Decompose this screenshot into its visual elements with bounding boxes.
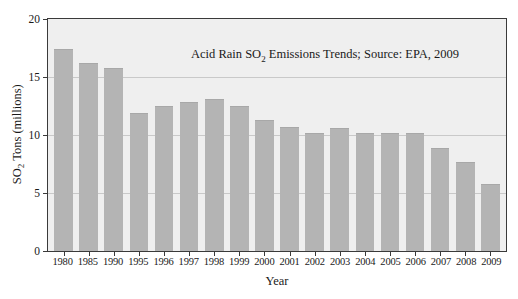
x-axis-tick-label-2002: 2002 <box>302 256 327 272</box>
x-axis-tick-labels: 1980198519901995199619971998199920002001… <box>47 256 507 272</box>
x-axis-tick-label-1985: 1985 <box>75 256 100 272</box>
bar-2009[interactable] <box>481 184 500 251</box>
x-axis-tick-label-2007: 2007 <box>428 256 453 272</box>
bar-2002[interactable] <box>305 133 324 251</box>
y-axis-tick <box>43 251 48 252</box>
bar-2004[interactable] <box>356 133 375 251</box>
x-axis-tick-label-2006: 2006 <box>403 256 428 272</box>
bar-1995[interactable] <box>130 113 149 251</box>
y-axis-title: SO2 Tons (millions) <box>10 34 27 234</box>
bar-2000[interactable] <box>255 120 274 251</box>
x-axis-tick-label-2003: 2003 <box>327 256 352 272</box>
y-axis-tick-label: 0 <box>34 245 40 257</box>
x-axis-tick-label-1995: 1995 <box>126 256 151 272</box>
x-axis-tick-label-2009: 2009 <box>479 256 504 272</box>
x-axis-tick-label-1998: 1998 <box>201 256 226 272</box>
bar-2007[interactable] <box>431 148 450 251</box>
bar-2006[interactable] <box>406 133 425 251</box>
plot-area: 05101520 Acid Rain SO2 Emissions Trends;… <box>47 18 507 252</box>
bar-2005[interactable] <box>381 133 400 251</box>
y-axis-tick-label: 10 <box>29 129 41 141</box>
y-axis-title-subscript: 2 <box>16 164 26 169</box>
x-axis-tick-label-1996: 1996 <box>151 256 176 272</box>
y-axis-title-before: SO <box>10 168 24 184</box>
chart-title-before: Acid Rain SO <box>191 47 261 61</box>
bar-1996[interactable] <box>155 106 174 251</box>
x-axis-tick-label-1999: 1999 <box>227 256 252 272</box>
x-axis-title: Year <box>47 274 507 289</box>
bar-2003[interactable] <box>330 128 349 251</box>
bar-1980[interactable] <box>54 49 73 251</box>
x-axis-tick-label-1980: 1980 <box>50 256 75 272</box>
x-axis-tick-label-1997: 1997 <box>176 256 201 272</box>
x-axis-tick-label-2005: 2005 <box>378 256 403 272</box>
y-axis-tick-label: 5 <box>34 187 40 199</box>
x-axis-tick-label-2008: 2008 <box>454 256 479 272</box>
x-axis-tick-label-1990: 1990 <box>100 256 125 272</box>
bar-1990[interactable] <box>104 68 123 251</box>
y-axis-tick-label: 20 <box>29 13 41 25</box>
bar-1997[interactable] <box>180 102 199 251</box>
chart-title-after: Emissions Trends; Source: EPA, 2009 <box>266 47 459 61</box>
x-axis-tick-label-2000: 2000 <box>252 256 277 272</box>
bar-1998[interactable] <box>205 99 224 251</box>
y-axis-tick-label: 15 <box>29 71 41 83</box>
chart-title: Acid Rain SO2 Emissions Trends; Source: … <box>95 47 518 64</box>
bar-2001[interactable] <box>280 127 299 251</box>
y-axis-title-after: Tons (millions) <box>10 84 24 163</box>
bar-1999[interactable] <box>230 106 249 251</box>
bar-2008[interactable] <box>456 162 475 251</box>
x-axis-tick-label-2004: 2004 <box>353 256 378 272</box>
bar-1985[interactable] <box>79 63 98 251</box>
chart-figure: SO2 Tons (millions) 05101520 Acid Rain S… <box>0 0 518 299</box>
x-axis-tick-label-2001: 2001 <box>277 256 302 272</box>
bar-slot <box>51 19 76 251</box>
